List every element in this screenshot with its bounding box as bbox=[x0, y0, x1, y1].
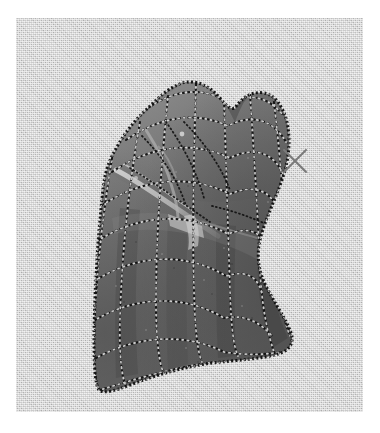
mesh-stage: X bbox=[16, 18, 363, 412]
figure-root: X bbox=[0, 0, 380, 433]
mesh-surface-graphic bbox=[16, 18, 363, 412]
mesh-body-group bbox=[76, 68, 316, 408]
scan-background-panel: X bbox=[16, 18, 363, 412]
x-axis-cross-icon bbox=[284, 150, 306, 172]
